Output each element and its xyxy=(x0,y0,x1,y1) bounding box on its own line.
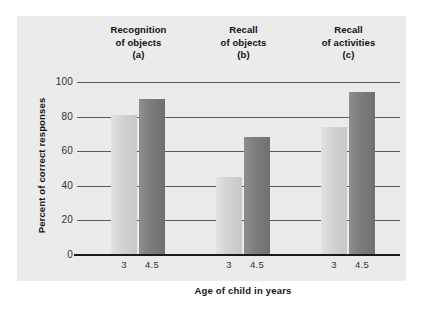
y-axis-title: Percent of correct responses xyxy=(36,71,47,261)
group-header-a: Recognition of objects (a) xyxy=(86,24,191,62)
ytick-dash-40 xyxy=(77,186,86,187)
xtick-label-c-3: 3 xyxy=(321,259,347,270)
x-axis-line xyxy=(74,254,400,256)
xtick-label-b-3: 3 xyxy=(216,259,242,270)
plot-area: Recognition of objects (a) Recall of obj… xyxy=(0,0,423,309)
group-header-a-line2: of objects xyxy=(86,37,191,50)
ytick-dash-60 xyxy=(77,151,86,152)
group-header-a-line1: Recognition xyxy=(86,24,191,37)
ytick-dash-100 xyxy=(77,82,86,83)
group-header-b: Recall of objects (b) xyxy=(191,24,296,62)
group-header-b-line1: Recall xyxy=(191,24,296,37)
ytick-dash-20 xyxy=(77,220,86,221)
group-header-c-line3: (c) xyxy=(296,49,401,62)
group-header-c-line2: of activities xyxy=(296,37,401,50)
bar-recall-activities-age3 xyxy=(321,127,347,255)
x-axis-title: Age of child in years xyxy=(86,285,400,296)
bar-recognition-age4-5 xyxy=(139,99,165,255)
xtick-label-a-4-5: 4.5 xyxy=(139,259,165,270)
group-header-c-line1: Recall xyxy=(296,24,401,37)
bar-chart-figure: Recognition of objects (a) Recall of obj… xyxy=(0,0,423,309)
group-header-c: Recall of activities (c) xyxy=(296,24,401,62)
bar-recall-objects-age3 xyxy=(216,177,242,255)
gridline-100 xyxy=(86,82,400,83)
bar-recognition-age3 xyxy=(111,115,137,255)
xtick-label-a-3: 3 xyxy=(111,259,137,270)
ytick-dash-80 xyxy=(77,117,86,118)
bar-recall-activities-age4-5 xyxy=(349,92,375,255)
group-header-b-line3: (b) xyxy=(191,49,296,62)
xtick-label-c-4-5: 4.5 xyxy=(349,259,375,270)
group-header-a-line3: (a) xyxy=(86,49,191,62)
xtick-label-b-4-5: 4.5 xyxy=(244,259,270,270)
bar-recall-objects-age4-5 xyxy=(244,137,270,255)
group-header-b-line2: of objects xyxy=(191,37,296,50)
